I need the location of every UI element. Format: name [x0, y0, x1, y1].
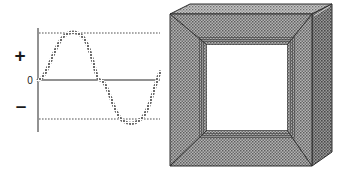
sine-wave-svg: + 0 –	[0, 0, 172, 174]
zero-label: 0	[27, 75, 33, 86]
sine-wave-diagram: + 0 –	[0, 0, 172, 174]
frame-side-face	[312, 4, 332, 166]
frame-opening	[207, 45, 287, 130]
picture-frame-svg	[168, 0, 349, 174]
positive-label: +	[14, 45, 25, 66]
picture-frame-illustration	[168, 0, 349, 174]
negative-label: –	[16, 95, 27, 116]
figure-root: + 0 –	[0, 0, 349, 174]
sine-curve	[0, 0, 172, 174]
frame-top-face	[170, 4, 332, 14]
